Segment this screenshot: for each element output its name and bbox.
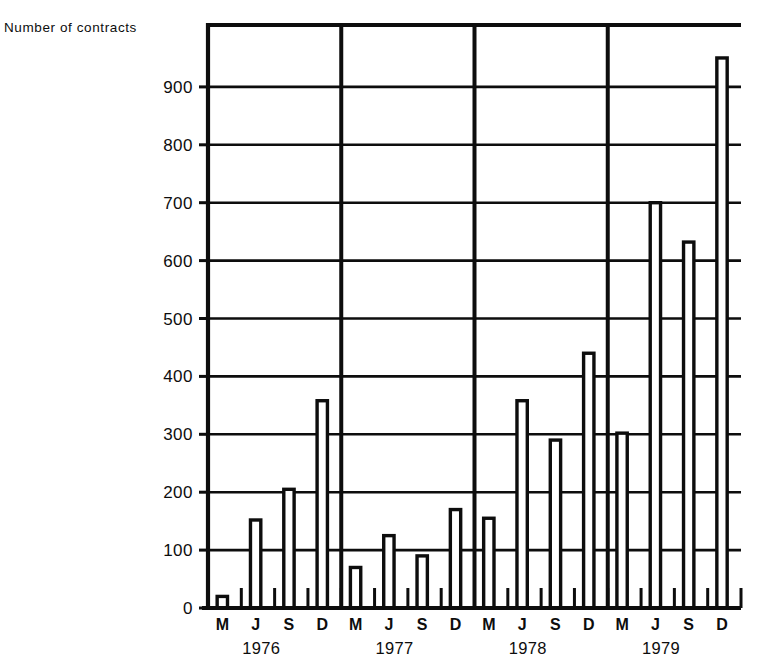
- x-group-label-1976: 1976: [242, 639, 280, 657]
- y-tick-label-100: 100: [163, 541, 193, 560]
- bar-chart-canvas: 9008007006005004003002001000MJSD1976MJSD…: [0, 0, 757, 657]
- y-tick-label-900: 900: [163, 78, 193, 97]
- bar-1976-D: [317, 401, 327, 608]
- bar-1979-D: [717, 58, 727, 608]
- chart-figure: Number of contracts 90080070060050040030…: [0, 0, 757, 657]
- bar-1978-S: [550, 440, 560, 608]
- bar-1977-J: [384, 536, 394, 608]
- x-tick-label-1977-M: M: [349, 616, 362, 633]
- y-tick-label-500: 500: [163, 310, 193, 329]
- bar-1979-S: [684, 242, 694, 608]
- x-tick-label-1978-S: S: [550, 616, 561, 633]
- y-tick-label-800: 800: [163, 136, 193, 155]
- x-tick-label-1978-D: D: [583, 616, 595, 633]
- bar-1977-D: [450, 510, 460, 608]
- bar-1977-M: [350, 567, 360, 608]
- bar-1976-J: [250, 520, 260, 608]
- y-tick-label-600: 600: [163, 252, 193, 271]
- x-tick-label-1977-S: S: [417, 616, 428, 633]
- bar-1979-J: [650, 203, 660, 608]
- x-tick-label-1976-J: J: [251, 616, 260, 633]
- x-group-label-1979: 1979: [642, 639, 680, 657]
- x-group-label-1977: 1977: [375, 639, 413, 657]
- x-tick-label-1977-J: J: [384, 616, 393, 633]
- bar-1978-D: [584, 353, 594, 608]
- y-tick-label-700: 700: [163, 194, 193, 213]
- y-tick-label-400: 400: [163, 367, 193, 386]
- x-tick-label-1976-S: S: [284, 616, 295, 633]
- x-tick-label-1979-M: M: [615, 616, 628, 633]
- bar-1976-S: [284, 489, 294, 608]
- x-tick-label-1979-J: J: [651, 616, 660, 633]
- y-tick-label-300: 300: [163, 425, 193, 444]
- x-tick-label-1978-M: M: [482, 616, 495, 633]
- x-tick-label-1978-J: J: [518, 616, 527, 633]
- bar-1978-M: [484, 518, 494, 608]
- x-tick-label-1977-D: D: [450, 616, 462, 633]
- bar-1977-S: [417, 556, 427, 608]
- x-tick-label-1979-S: S: [683, 616, 694, 633]
- x-tick-label-1976-M: M: [216, 616, 229, 633]
- x-tick-label-1976-D: D: [316, 616, 328, 633]
- bar-1979-M: [617, 433, 627, 608]
- x-tick-label-1979-D: D: [716, 616, 728, 633]
- y-tick-label-0: 0: [183, 599, 193, 618]
- x-group-label-1978: 1978: [509, 639, 547, 657]
- bar-1978-J: [517, 401, 527, 608]
- y-tick-label-200: 200: [163, 483, 193, 502]
